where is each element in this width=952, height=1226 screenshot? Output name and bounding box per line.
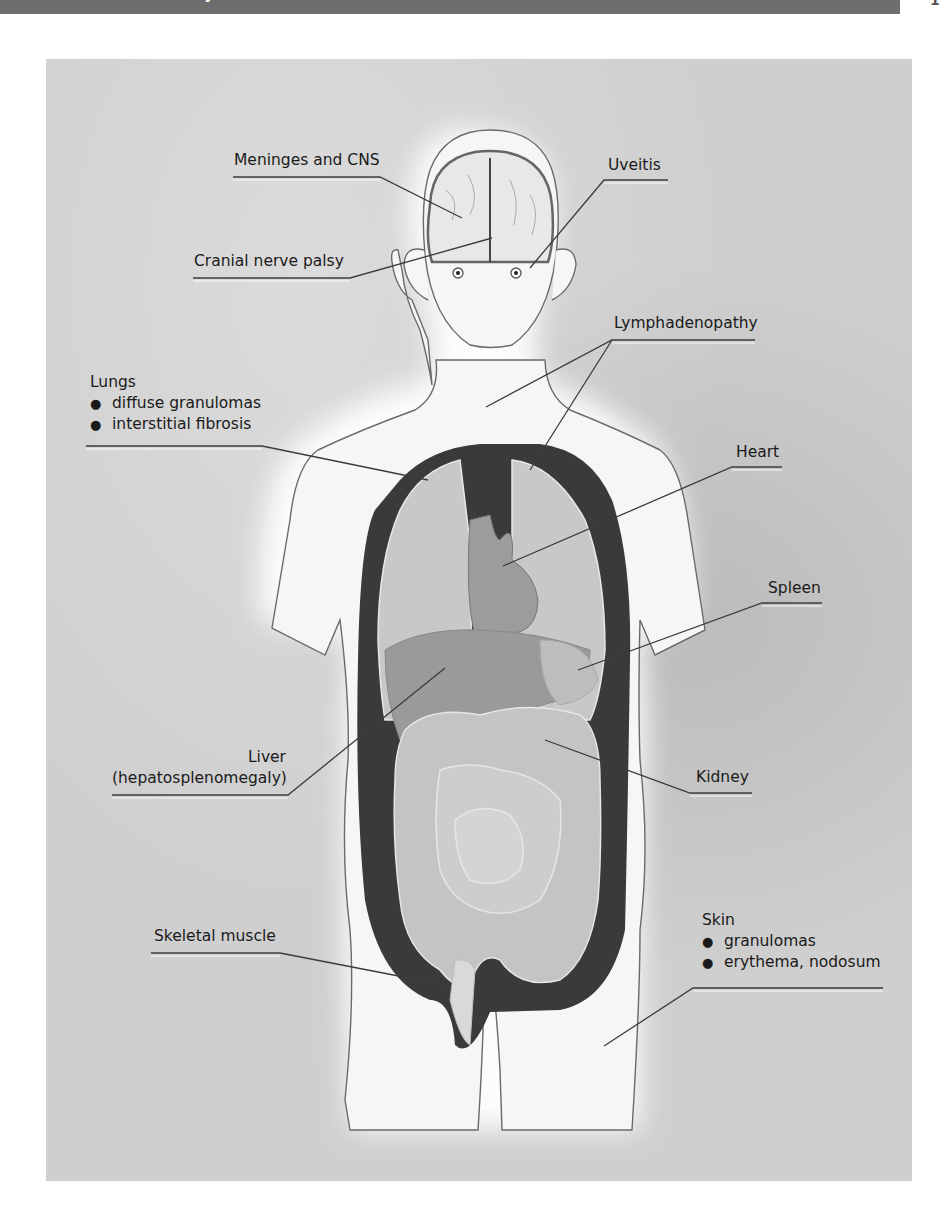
label-lungs: Lungs diffuse granulomas interstitial fi…: [90, 372, 261, 435]
bullet-item: diffuse granulomas: [90, 393, 261, 414]
bullet-item: erythema, nodosum: [702, 952, 881, 973]
label-text: Lymphadenopathy: [614, 313, 758, 334]
leader-skin: [604, 988, 883, 1046]
label-cranial-nerve-palsy: Cranial nerve palsy: [194, 251, 344, 272]
label-spleen: Spleen: [768, 578, 821, 599]
label-text: Kidney: [696, 767, 749, 788]
label-title: Skin: [702, 910, 881, 931]
label-liver: Liver (hepatosplenomegaly): [112, 747, 286, 789]
label-meninges-cns: Meninges and CNS: [234, 150, 380, 171]
label-subtitle: (hepatosplenomegaly): [112, 768, 286, 789]
label-text: Skeletal muscle: [154, 926, 276, 947]
brain-illustration: [428, 151, 553, 262]
label-text: Spleen: [768, 578, 821, 599]
label-skin: Skin granulomas erythema, nodosum: [702, 910, 881, 973]
label-skeletal-muscle: Skeletal muscle: [154, 926, 276, 947]
bullet-item: interstitial fibrosis: [90, 414, 261, 435]
label-title: Lungs: [90, 372, 261, 393]
label-text: Heart: [736, 442, 779, 463]
label-title: Liver: [112, 747, 286, 768]
bullet-item: granulomas: [702, 931, 881, 952]
label-uveitis: Uveitis: [608, 155, 661, 176]
label-lymphadenopathy: Lymphadenopathy: [614, 313, 758, 334]
body-figure-illustration: [0, 0, 952, 1226]
label-kidney: Kidney: [696, 767, 749, 788]
label-text: Uveitis: [608, 155, 661, 176]
label-text: Cranial nerve palsy: [194, 251, 344, 272]
label-text: Meninges and CNS: [234, 150, 380, 171]
label-heart: Heart: [736, 442, 779, 463]
